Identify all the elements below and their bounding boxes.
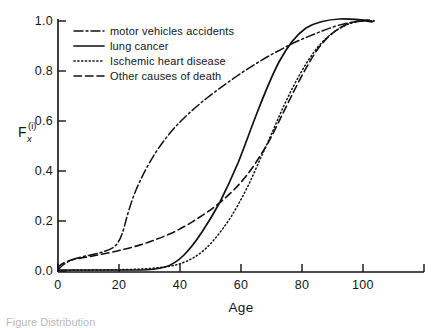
- legend-item-lung-cancer[interactable]: lung cancer: [74, 40, 169, 52]
- y-tick-label-0.2: 0.2: [35, 214, 53, 228]
- legend-item-motor-vehicles-accidents[interactable]: motor vehicles accidents: [74, 25, 234, 37]
- legend-item-other-causes-of-death[interactable]: Other causes of death: [74, 70, 221, 82]
- x-tick-label-100: 100: [352, 278, 374, 292]
- y-tick-group: 1.0 0.8 0.6 0.4 0.2 0.0: [35, 14, 66, 278]
- y-tick-label-0.4: 0.4: [35, 164, 53, 178]
- y-tick-label-0.8: 0.8: [35, 64, 53, 78]
- x-tick-group: 0 20 40 60 80 100: [54, 264, 374, 292]
- line-chart: 1.0 0.8 0.6 0.4 0.2 0.0 0 20 40 60 80 10…: [0, 0, 436, 328]
- y-axis-title-main: F: [18, 124, 27, 140]
- x-tick-label-80: 80: [295, 278, 310, 292]
- y-tick-label-1.0: 1.0: [35, 14, 53, 28]
- legend-item-ischemic-heart-disease[interactable]: Ischemic heart disease: [74, 55, 226, 67]
- legend-label-other-causes-of-death: Other causes of death: [110, 70, 221, 82]
- x-tick-label-60: 60: [234, 278, 249, 292]
- x-tick-label-0: 0: [54, 278, 61, 292]
- y-tick-label-0.0: 0.0: [35, 264, 53, 278]
- figure-caption-partial: Figure Distribution: [6, 317, 206, 328]
- legend-label-lung-cancer: lung cancer: [110, 40, 169, 52]
- y-axis-title-subscript: x: [26, 133, 33, 144]
- y-axis-title: F x (i): [18, 120, 36, 144]
- x-tick-label-40: 40: [173, 278, 188, 292]
- legend-label-motor-vehicles-accidents: motor vehicles accidents: [110, 25, 234, 37]
- x-axis-title: Age: [228, 300, 253, 315]
- x-tick-label-20: 20: [112, 278, 127, 292]
- figure-container: 1.0 0.8 0.6 0.4 0.2 0.0 0 20 40 60 80 10…: [0, 0, 436, 328]
- y-axis-title-superscript: (i): [28, 120, 36, 131]
- legend-label-ischemic-heart-disease: Ischemic heart disease: [110, 55, 226, 67]
- chart-legend: motor vehicles accidents lung cancer Isc…: [74, 25, 234, 82]
- y-tick-label-0.6: 0.6: [35, 114, 53, 128]
